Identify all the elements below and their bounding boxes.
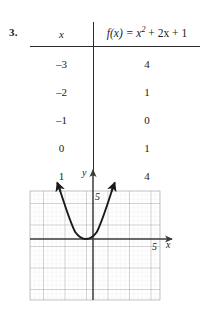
graph-svg: y 5 5 x	[0, 160, 208, 312]
curve-arrow-right	[112, 183, 115, 192]
table-header-rule	[30, 46, 200, 47]
table-row: –3	[30, 58, 93, 70]
function-table: x f(x) = x2 + 2x + 1 –3 4 –2 1 –1 0 0 1 …	[30, 22, 200, 177]
table-row: 0	[30, 142, 93, 154]
table-header-formula: f(x) = x2 + 2x + 1	[94, 27, 200, 39]
x-axis-label: x	[165, 239, 171, 250]
problem-number: 3.	[9, 26, 18, 38]
worksheet-page: 3. x f(x) = x2 + 2x + 1 –3 4 –2 1 –1 0 0…	[0, 0, 208, 312]
table-row: 1	[94, 142, 200, 154]
y-axis-label: y	[81, 167, 87, 178]
x-axis-tick-label: 5	[152, 241, 157, 252]
table-row: –1	[30, 114, 93, 126]
table-header-x: x	[30, 28, 93, 40]
table-row: 0	[94, 114, 200, 126]
formula-suffix: + 2x + 1	[145, 27, 187, 39]
grid-area	[30, 191, 160, 300]
parabola-graph: y 5 5 x	[0, 160, 208, 312]
table-row: 4	[94, 58, 200, 70]
table-row: –2	[30, 86, 93, 98]
curve-arrow-left	[57, 183, 60, 192]
table-row: 1	[94, 86, 200, 98]
formula-prefix: f(x) = x	[107, 27, 142, 39]
y-axis-tick-label: 5	[95, 191, 100, 202]
